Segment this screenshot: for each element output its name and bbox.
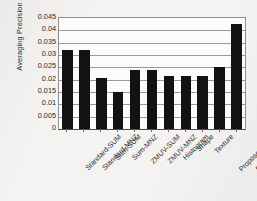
- bar: [231, 24, 241, 129]
- x-axis-tick-mark: [100, 129, 101, 132]
- x-axis-tick-label: Texture: [213, 133, 235, 155]
- bar-slot: [160, 18, 177, 129]
- x-axis-tick-labels: Standard-SUMStandard-MNZSum-SUMSum-MNZZM…: [58, 133, 244, 199]
- bar: [79, 50, 89, 129]
- y-axis-tick-label: 0.015: [18, 87, 56, 95]
- x-axis-tick-mark: [202, 129, 203, 132]
- y-axis-tick-labels: 0.0450.040.0350.030.0250.020.0150.010.00…: [18, 13, 56, 132]
- x-axis-tick-label: Shape: [195, 133, 215, 153]
- plot-area: [58, 17, 246, 130]
- bar-slot: [228, 18, 245, 129]
- bar-slot: [127, 18, 144, 129]
- bar: [62, 50, 72, 129]
- bar: [130, 70, 140, 129]
- y-axis-tick-label: 0.02: [18, 75, 56, 83]
- bar-slot: [59, 18, 76, 129]
- x-axis-tick-mark: [219, 129, 220, 132]
- bar-slot: [194, 18, 211, 129]
- bar-slot: [110, 18, 127, 129]
- bar-slot: [76, 18, 93, 129]
- chart-figure: Averaging Precision 0.0450.040.0350.030.…: [0, 0, 257, 201]
- bar-series: [59, 18, 245, 129]
- x-axis-tick-mark: [83, 129, 84, 132]
- x-axis-tick-mark: [236, 129, 237, 132]
- bar: [214, 67, 224, 129]
- y-axis-tick-label: 0.035: [18, 38, 56, 46]
- y-axis-tick-label: 0.005: [18, 112, 56, 120]
- bar: [147, 70, 157, 129]
- bar-slot: [177, 18, 194, 129]
- x-axis-tick-mark: [168, 129, 169, 132]
- bar: [164, 76, 174, 129]
- y-axis-tick-label: 0.045: [18, 13, 56, 21]
- bar-slot: [93, 18, 110, 129]
- x-axis-tick-mark: [185, 129, 186, 132]
- bar: [197, 76, 207, 129]
- y-axis-tick-label: 0.03: [18, 50, 56, 58]
- y-axis-tick-label: 0.04: [18, 25, 56, 33]
- x-axis-tick-mark: [134, 129, 135, 132]
- bar: [113, 92, 123, 129]
- y-axis-tick-label: 0: [18, 124, 56, 132]
- bar-slot: [211, 18, 228, 129]
- y-axis-tick-label: 0.01: [18, 99, 56, 107]
- bar-slot: [144, 18, 161, 129]
- x-axis-tick-mark: [66, 129, 67, 132]
- bar: [181, 76, 191, 129]
- bar: [96, 78, 106, 129]
- y-axis-tick-label: 0.025: [18, 62, 56, 70]
